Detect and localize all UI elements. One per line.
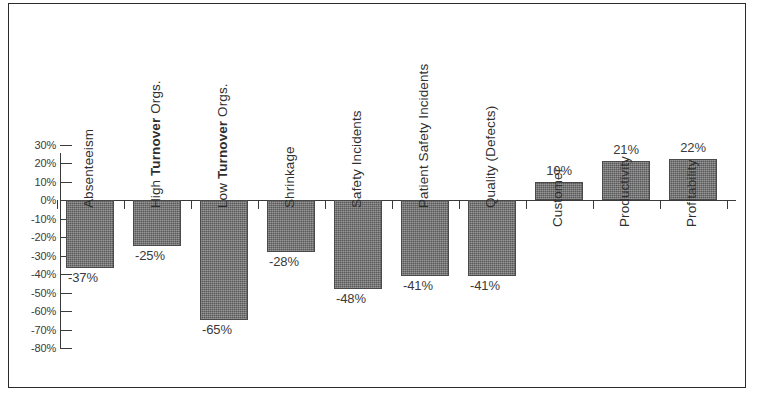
bar-value-label: 22% [680,140,706,155]
y-axis-tick-label: -80% [0,342,56,354]
x-axis-tick [660,200,661,209]
bar-value-label: -41% [470,278,500,293]
category-label-emphasis: Turnover [215,121,230,179]
category-label: Safety Incidents [349,110,364,208]
category-label-text: Shrinkage [282,146,297,208]
y-axis-tick-label: 30% [0,139,56,151]
y-axis-tick-label: -50% [0,287,56,299]
y-axis-tick-label: -10% [0,213,56,225]
x-axis-tick [191,200,192,209]
y-axis-tick [60,145,72,146]
category-label: High Turnover Orgs. [148,80,163,208]
x-axis-tick [325,200,326,209]
x-axis-tick [57,200,58,209]
x-axis-tick [459,200,460,209]
category-label-text: Orgs. [215,83,230,120]
y-axis-tick [60,311,72,312]
bar-value-label: -28% [269,254,299,269]
category-label-text: Profitability [684,160,699,227]
x-axis-tick [727,200,728,209]
bar [401,200,449,276]
x-axis-tick [124,200,125,209]
category-label: Absenteeism [81,129,96,208]
y-axis-tick-label: 20% [0,157,56,169]
category-label: Shrinkage [282,146,297,208]
y-axis-tick [60,182,72,183]
bar-value-label: -41% [403,278,433,293]
bar [66,200,114,268]
bar [200,200,248,320]
chart-figure: 30%20%10%0%-10%-20%-30%-40%-50%-60%-70%-… [0,0,762,411]
category-label-text: Safety Incidents [349,110,364,208]
bar-value-label: -65% [202,322,232,337]
y-axis-tick [60,330,72,331]
bar-value-label: -48% [336,291,366,306]
chart-plot-area: 30%20%10%0%-10%-20%-30%-40%-50%-60%-70%-… [0,0,762,411]
y-axis-tick-label: -30% [0,250,56,262]
x-axis-tick [392,200,393,209]
bar [334,200,382,289]
y-axis-tick [60,293,72,294]
category-label: Profitability [684,160,699,227]
category-label-text: Orgs. [148,80,163,117]
category-label: Low Turnover Orgs. [215,83,230,208]
category-label: Productivity [617,156,632,227]
bar-value-label: -37% [68,270,98,285]
category-label-text: Productivity [617,156,632,227]
x-axis-tick [258,200,259,209]
category-label-text: Absenteeism [81,129,96,208]
y-axis-tick-label: -20% [0,231,56,243]
category-label-text: Customer [550,168,565,227]
bar-value-label: -25% [135,248,165,263]
category-label-emphasis: Turnover [148,118,163,176]
category-label: Patient Safety Incidents [416,64,431,208]
bar-value-label: 21% [613,142,639,157]
category-label: Customer [550,168,565,227]
y-axis-tick-label: -60% [0,305,56,317]
category-label-text: Patient Safety Incidents [416,64,431,208]
y-axis-tick-label: 0% [0,194,56,206]
y-axis-tick [60,163,72,164]
x-axis-tick [526,200,527,209]
bar [468,200,516,276]
y-axis-tick-label: 10% [0,176,56,188]
y-axis-tick-label: -70% [0,324,56,336]
category-label: Quality (Defects) [483,106,498,208]
y-axis-tick [60,348,72,349]
category-label-text: Quality (Defects) [483,106,498,208]
category-label-text: High [148,176,163,208]
x-axis-tick [593,200,594,209]
y-axis-tick-label: -40% [0,268,56,280]
category-label-text: Low [215,179,230,208]
